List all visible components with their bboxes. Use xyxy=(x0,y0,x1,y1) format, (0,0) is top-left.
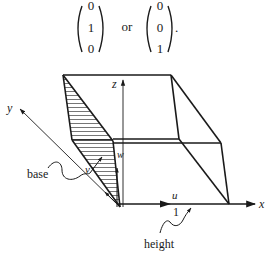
vector-b-entry-3: 1 xyxy=(157,41,164,56)
vector-a: 0 1 0 xyxy=(78,0,103,56)
right-paren xyxy=(99,6,103,52)
vector-b-entry-1: 0 xyxy=(157,0,164,13)
z-axis-label: z xyxy=(111,77,117,91)
left-paren xyxy=(78,6,82,52)
base-squiggle xyxy=(48,162,90,179)
vector-a-entry-3: 0 xyxy=(88,41,95,56)
v-label: v xyxy=(85,163,90,175)
vector-b: 0 0 1 xyxy=(147,0,172,56)
vector-a-entry-1: 0 xyxy=(88,0,95,13)
u-vector-arrow xyxy=(160,201,171,208)
vector-b-entry-2: 0 xyxy=(157,20,164,35)
base-label: base xyxy=(27,167,48,181)
unit-length-label: 1 xyxy=(173,205,179,219)
right-paren xyxy=(168,6,172,52)
period: . xyxy=(175,20,178,35)
base-face xyxy=(63,75,120,207)
w-label: w xyxy=(117,149,124,160)
u-label: u xyxy=(172,189,178,201)
height-label: height xyxy=(144,237,175,251)
parallelepiped-diagram: 0 1 0 or 0 0 1 . xyxy=(0,0,275,258)
vector-a-entry-2: 1 xyxy=(88,20,95,35)
or-connector: or xyxy=(122,19,134,34)
left-paren xyxy=(147,6,151,52)
y-axis-label: y xyxy=(6,101,13,115)
x-axis-label: x xyxy=(258,197,265,211)
